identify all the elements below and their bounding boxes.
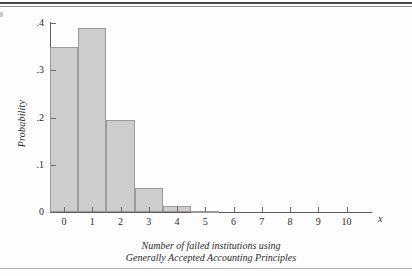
x-tick-label: 6 — [224, 216, 244, 227]
x-tick-label: 8 — [280, 216, 300, 227]
y-tick-mark — [51, 70, 56, 71]
y-tick-mark — [51, 118, 56, 119]
x-axis-caption: Number of failed institutions using Gene… — [56, 240, 366, 264]
x-tick-label: 1 — [82, 216, 102, 227]
x-tick-mark — [234, 207, 235, 212]
y-tick-label: .4 — [28, 18, 44, 28]
y-tick-mark — [51, 212, 56, 213]
x-tick-mark — [290, 207, 291, 212]
x-tick-label: 9 — [308, 216, 328, 227]
x-tick-mark — [121, 207, 122, 212]
x-tick-label: 10 — [337, 216, 357, 227]
x-tick-mark — [177, 207, 178, 212]
x-tick-label: 0 — [54, 216, 74, 227]
histogram-bar — [50, 47, 78, 212]
x-tick-mark — [149, 207, 150, 212]
x-tick-label: 4 — [167, 216, 187, 227]
x-tick-mark — [64, 207, 65, 212]
y-tick-mark — [51, 165, 56, 166]
x-tick-label: 3 — [139, 216, 159, 227]
x-tick-mark — [92, 207, 93, 212]
histogram-bar — [78, 28, 106, 212]
x-tick-label: 2 — [111, 216, 131, 227]
y-tick-label: .1 — [28, 160, 44, 170]
y-tick-mark — [51, 23, 56, 24]
x-tick-mark — [347, 207, 348, 212]
y-axis-label: Probability — [16, 89, 27, 159]
caption-line-2: Generally Accepted Accounting Principles — [56, 252, 366, 264]
x-tick-mark — [262, 207, 263, 212]
x-tick-mark — [318, 207, 319, 212]
y-tick-label: .2 — [28, 113, 44, 123]
caption-line-1: Number of failed institutions using — [56, 240, 366, 252]
x-tick-label: 7 — [252, 216, 272, 227]
figure-page: 0.1.2.3.4 012345678910 Probability x Num… — [0, 0, 412, 276]
y-tick-label: 0 — [28, 207, 44, 217]
histogram-chart: 0.1.2.3.4 012345678910 Probability x Num… — [0, 0, 412, 276]
x-variable-symbol: x — [378, 213, 382, 224]
x-tick-label: 5 — [195, 216, 215, 227]
histogram-bar — [106, 120, 134, 212]
x-tick-mark — [205, 207, 206, 212]
y-tick-label: .3 — [28, 65, 44, 75]
